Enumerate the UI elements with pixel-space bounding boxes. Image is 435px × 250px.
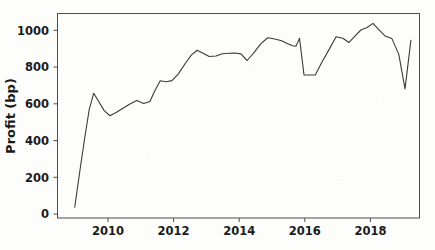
plot-frame bbox=[58, 14, 420, 219]
x-axis-ticks bbox=[108, 218, 370, 222]
y-tick-label-0: 0 bbox=[41, 207, 49, 221]
chart-figure: 1000 800 600 400 200 0 2010 2012 2014 20… bbox=[0, 0, 435, 250]
y-axis-ticks bbox=[54, 30, 58, 214]
x-tick-label-2012: 2012 bbox=[158, 224, 190, 238]
profit-series-line bbox=[75, 23, 411, 207]
x-tick-label-2018: 2018 bbox=[354, 224, 386, 238]
y-tick-label-800: 800 bbox=[25, 60, 49, 74]
y-axis-label: Profit (bp) bbox=[3, 78, 18, 154]
y-axis-tick-labels: 1000 800 600 400 200 0 bbox=[17, 24, 49, 222]
x-tick-label-2010: 2010 bbox=[92, 224, 124, 238]
y-tick-label-600: 600 bbox=[25, 97, 49, 111]
x-tick-label-2014: 2014 bbox=[223, 224, 255, 238]
profit-line-chart: 1000 800 600 400 200 0 2010 2012 2014 20… bbox=[0, 0, 435, 250]
x-axis-tick-labels: 2010 2012 2014 2016 2018 bbox=[92, 224, 386, 238]
y-tick-label-400: 400 bbox=[25, 134, 49, 148]
x-tick-label-2016: 2016 bbox=[289, 224, 321, 238]
y-tick-label-1000: 1000 bbox=[17, 24, 49, 38]
y-tick-label-200: 200 bbox=[25, 171, 49, 185]
